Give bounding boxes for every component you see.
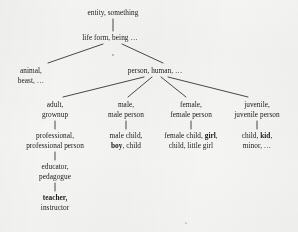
node-adult-line-2: grownup: [42, 110, 68, 120]
node-male-child-text: , child: [122, 141, 141, 150]
node-educator[interactable]: educator,pedagogue: [39, 162, 71, 181]
node-adult-text: adult,: [47, 100, 64, 109]
node-teacher[interactable]: teacher,instructor: [41, 193, 69, 212]
node-female-child-text: female child,: [164, 131, 204, 140]
node-professional-text: professional person: [26, 141, 84, 150]
node-life-form[interactable]: life form, being …: [82, 33, 137, 43]
node-male-text: male person: [108, 110, 144, 119]
node-male-child-text: male child,: [110, 131, 143, 140]
node-adult[interactable]: adult,grownup: [42, 100, 68, 119]
node-juvenile-line-1: juvenile,: [234, 100, 279, 110]
node-adult-text: grownup: [42, 110, 68, 119]
node-male-child-line-1: male child,: [110, 131, 143, 141]
node-child-kid-text: ,: [270, 131, 272, 140]
node-female-line-2: female person: [170, 110, 212, 120]
node-male-line-1: male,: [108, 100, 144, 110]
node-animal-line-2: beast, …: [18, 76, 44, 86]
node-child-kid-line-2: minor, …: [242, 141, 273, 151]
node-child-kid[interactable]: child, kid,minor, …: [242, 131, 273, 150]
node-teacher-text: instructor: [41, 203, 69, 212]
node-life-form-line-1: life form, being …: [82, 33, 137, 43]
node-person-line-1: person, human, …: [128, 66, 183, 76]
edge-person-to-juvenile: [168, 77, 248, 97]
node-male-child-line-2: boy, child: [110, 141, 143, 151]
hypernym-tree-figure: entity, somethinglife form, being …anima…: [0, 0, 298, 232]
node-educator-text: educator,: [41, 162, 68, 171]
node-child-kid-text: child,: [242, 131, 261, 140]
node-male[interactable]: male,male person: [108, 100, 144, 119]
node-professional-line-1: professional,: [26, 131, 84, 141]
node-professional[interactable]: professional,professional person: [26, 131, 84, 150]
node-educator-line-1: educator,: [39, 162, 71, 172]
node-female[interactable]: female,female person: [170, 100, 212, 119]
node-juvenile-text: juvenile,: [244, 100, 270, 109]
node-female-text: female,: [180, 100, 202, 109]
node-teacher-line-1: teacher,: [41, 193, 69, 203]
node-male-child[interactable]: male child,boy, child: [110, 131, 143, 150]
node-female-child-text: child, little girl: [169, 141, 213, 150]
node-animal-line-1: animal,: [18, 66, 44, 76]
node-child-kid-text-emphasis: kid: [260, 131, 270, 140]
node-female-child-text: ,: [216, 131, 218, 140]
mark-speck-center: [112, 54, 113, 55]
node-animal-text: animal,: [20, 66, 42, 75]
mark-speck-bottom: [185, 222, 186, 223]
node-person-text: person, human, …: [128, 66, 183, 75]
node-person[interactable]: person, human, …: [128, 66, 183, 76]
node-male-child-text-emphasis: boy: [111, 141, 122, 150]
node-child-kid-text: minor, …: [243, 141, 271, 150]
edge-life-form-to-animal: [48, 44, 103, 63]
node-female-child-line-2: child, little girl: [164, 141, 217, 151]
node-female-child[interactable]: female child, girl,child, little girl: [164, 131, 217, 150]
node-teacher-text-emphasis: teacher,: [43, 193, 68, 202]
node-educator-text: pedagogue: [39, 172, 71, 181]
node-adult-line-1: adult,: [42, 100, 68, 110]
node-female-line-1: female,: [170, 100, 212, 110]
node-animal[interactable]: animal,beast, …: [18, 66, 44, 85]
node-professional-line-2: professional person: [26, 141, 84, 151]
node-female-text: female person: [170, 110, 212, 119]
node-professional-text: professional,: [36, 131, 74, 140]
node-entity-line-1: entity, something: [88, 8, 139, 18]
node-educator-line-2: pedagogue: [39, 172, 71, 182]
node-entity[interactable]: entity, something: [88, 8, 139, 18]
node-entity-text: entity, something: [88, 8, 139, 17]
node-male-line-2: male person: [108, 110, 144, 120]
node-child-kid-line-1: child, kid,: [242, 131, 273, 141]
node-female-child-text-emphasis: girl: [205, 131, 216, 140]
node-juvenile-text: juvenile person: [234, 110, 279, 119]
node-male-text: male,: [118, 100, 134, 109]
node-juvenile[interactable]: juvenile,juvenile person: [234, 100, 279, 119]
edge-person-to-female: [161, 77, 186, 97]
node-life-form-text: life form, being …: [82, 33, 137, 42]
node-female-child-line-1: female child, girl,: [164, 131, 217, 141]
node-teacher-line-2: instructor: [41, 203, 69, 213]
edge-life-form-to-person: [122, 44, 163, 63]
node-animal-text: beast, …: [18, 76, 44, 85]
node-juvenile-line-2: juvenile person: [234, 110, 279, 120]
